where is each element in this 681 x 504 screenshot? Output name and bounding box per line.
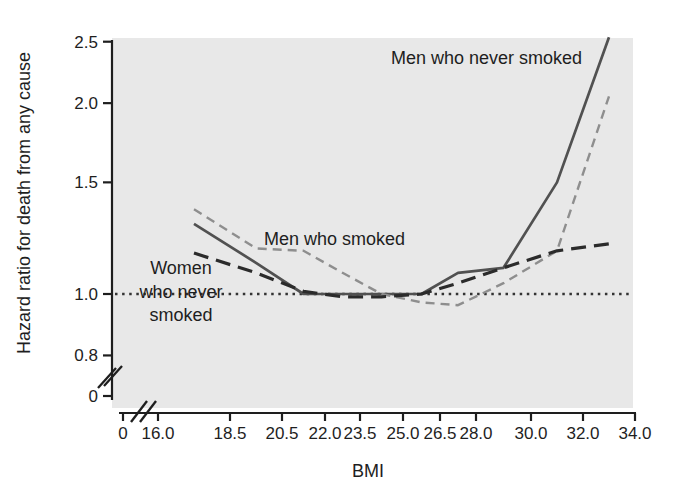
y-axis-title: Hazard ratio for death from any cause — [14, 52, 34, 354]
y-tick-label-2-5: 2.5 — [74, 33, 98, 52]
x-axis-title: BMI — [352, 461, 384, 481]
y-tick-label-0: 0 — [89, 387, 98, 406]
bmi-hazard-ratio-figure: 2.52.01.51.00.80016.018.520.522.023.525.… — [0, 0, 681, 504]
x-tick-label-34-0: 34.0 — [618, 424, 651, 443]
bmi-hazard-ratio-chart: 2.52.01.51.00.80016.018.520.522.023.525.… — [0, 0, 681, 504]
y-tick-label-0-8: 0.8 — [74, 346, 98, 365]
x-tick-label-0: 0 — [118, 424, 127, 443]
y-tick-label-1-5: 1.5 — [74, 173, 98, 192]
annotation-women-who-never-smoked-line-3: smoked — [149, 305, 212, 325]
y-tick-label-1-0: 1.0 — [74, 285, 98, 304]
x-tick-label-16-0: 16.0 — [141, 424, 174, 443]
x-tick-label-26-5: 26.5 — [423, 424, 456, 443]
x-tick-label-22-0: 22.0 — [308, 424, 341, 443]
annotation-women-who-never-smoked-line-1: Women — [150, 258, 212, 278]
x-tick-label-18-5: 18.5 — [213, 424, 246, 443]
x-tick-label-25-0: 25.0 — [386, 424, 419, 443]
annotation-women-who-never-smoked-line-2: who never — [138, 282, 222, 302]
x-tick-label-30-0: 30.0 — [514, 424, 547, 443]
plot-area — [112, 38, 633, 408]
x-tick-label-28-0: 28.0 — [459, 424, 492, 443]
x-tick-label-23-5: 23.5 — [343, 424, 376, 443]
x-tick-label-32-0: 32.0 — [566, 424, 599, 443]
x-tick-label-20-5: 20.5 — [265, 424, 298, 443]
annotation-men-who-never-smoked: Men who never smoked — [391, 48, 582, 68]
y-tick-label-2-0: 2.0 — [74, 94, 98, 113]
annotation-men-who-smoked: Men who smoked — [264, 229, 405, 249]
